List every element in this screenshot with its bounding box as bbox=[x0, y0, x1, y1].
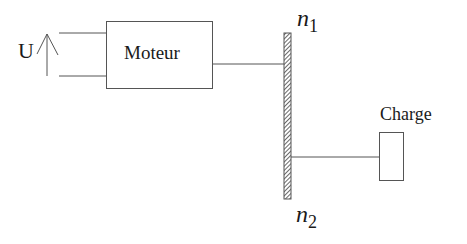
load-box bbox=[380, 133, 404, 181]
gear-label-n2-base: n bbox=[296, 201, 308, 227]
voltage-arrow-icon bbox=[37, 34, 58, 76]
load-label: Charge bbox=[380, 105, 432, 123]
gear-label-n1-subscript: 1 bbox=[309, 16, 318, 36]
voltage-label: U bbox=[18, 40, 34, 62]
gear-label-n1: n1 bbox=[297, 6, 318, 30]
gear-label-n1-base: n bbox=[297, 5, 309, 31]
motor-label: Moteur bbox=[124, 43, 180, 62]
gear-label-n2-subscript: 2 bbox=[308, 212, 317, 232]
gear-label-n2: n2 bbox=[296, 202, 317, 226]
gear-bar bbox=[284, 33, 291, 199]
input-wires bbox=[59, 33, 106, 76]
